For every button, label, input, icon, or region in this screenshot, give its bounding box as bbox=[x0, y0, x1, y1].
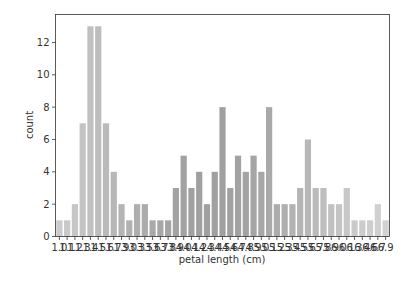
bar-4.3 bbox=[204, 204, 210, 236]
bar-5.1 bbox=[266, 107, 272, 236]
bar-6.3 bbox=[351, 220, 357, 236]
bar-3.5 bbox=[142, 204, 148, 236]
bar-4.6 bbox=[227, 188, 233, 237]
bar-1.6 bbox=[103, 123, 109, 236]
bar-5.2 bbox=[274, 204, 280, 236]
bar-6.6 bbox=[367, 220, 373, 236]
bar-4.2 bbox=[196, 172, 202, 237]
bar-6.0 bbox=[336, 204, 342, 236]
bar-1.4 bbox=[87, 26, 93, 236]
bar-3.6 bbox=[149, 220, 155, 236]
bar-4.4 bbox=[212, 172, 218, 237]
bars-group bbox=[56, 26, 388, 236]
bar-6.1 bbox=[344, 188, 350, 237]
bar-1.3 bbox=[80, 123, 86, 236]
bar-3.0 bbox=[126, 220, 132, 236]
bar-5.4 bbox=[289, 204, 295, 236]
bar-5.9 bbox=[328, 204, 334, 236]
bar-1.2 bbox=[72, 204, 78, 236]
x-axis-ticks: 1.01.11.21.31.41.51.61.71.93.03.33.53.63… bbox=[51, 237, 393, 253]
y-tick-label: 8 bbox=[43, 102, 49, 113]
bar-5.3 bbox=[282, 204, 288, 236]
bar-3.3 bbox=[134, 204, 140, 236]
countplot-chart: 1.01.11.21.31.41.51.61.71.93.03.33.53.63… bbox=[0, 0, 412, 282]
bar-5.5 bbox=[297, 188, 303, 237]
bar-1.9 bbox=[118, 204, 124, 236]
y-tick-label: 0 bbox=[43, 231, 49, 242]
bar-4.8 bbox=[243, 172, 249, 237]
x-axis-label: petal length (cm) bbox=[179, 254, 266, 265]
bar-3.9 bbox=[173, 188, 179, 237]
bar-4.1 bbox=[188, 188, 194, 237]
x-tick-label: 6.9 bbox=[378, 242, 394, 253]
bar-1.0 bbox=[56, 220, 62, 236]
bar-4.7 bbox=[235, 156, 241, 237]
bar-6.7 bbox=[375, 204, 381, 236]
y-tick-label: 6 bbox=[43, 134, 49, 145]
bar-1.7 bbox=[111, 172, 117, 237]
bar-6.9 bbox=[383, 220, 389, 236]
y-tick-label: 2 bbox=[43, 199, 49, 210]
bar-5.8 bbox=[320, 188, 326, 237]
bar-1.5 bbox=[95, 26, 101, 236]
y-axis-ticks: 024681012 bbox=[37, 37, 56, 242]
y-axis-label: count bbox=[24, 111, 35, 139]
bar-3.7 bbox=[157, 220, 163, 236]
y-tick-label: 10 bbox=[37, 69, 50, 80]
bar-5.6 bbox=[305, 139, 311, 236]
y-tick-label: 4 bbox=[43, 166, 49, 177]
bar-3.8 bbox=[165, 220, 171, 236]
bar-5.7 bbox=[313, 188, 319, 237]
bar-4.5 bbox=[219, 107, 225, 236]
y-tick-label: 12 bbox=[37, 37, 50, 48]
bar-4.9 bbox=[250, 156, 256, 237]
bar-6.4 bbox=[359, 220, 365, 236]
bar-5.0 bbox=[258, 172, 264, 237]
bar-1.1 bbox=[64, 220, 70, 236]
bar-4.0 bbox=[181, 156, 187, 237]
